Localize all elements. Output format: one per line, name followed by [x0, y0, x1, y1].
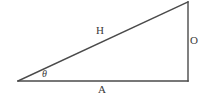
- opposite-label: O: [190, 35, 198, 46]
- adjacent-label: A: [98, 84, 106, 95]
- triangle-diagram: H O A θ: [0, 0, 210, 103]
- hypotenuse-label: H: [96, 25, 104, 36]
- theta-angle-label: θ: [42, 69, 47, 79]
